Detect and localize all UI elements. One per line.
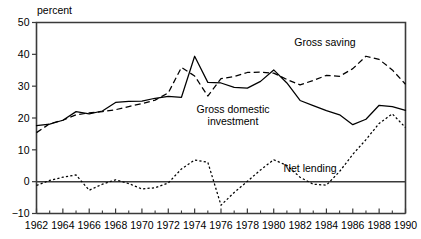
y-tick-label: −10 xyxy=(12,207,30,219)
series-annotations: Gross savingGross domesticinvestmentNet … xyxy=(197,36,356,174)
series-line-net-lending xyxy=(37,114,406,205)
x-tick-label: 1988 xyxy=(367,219,391,231)
x-tick-label: 1970 xyxy=(130,219,154,231)
x-tick-label: 1968 xyxy=(104,219,128,231)
y-axis-unit-label: percent xyxy=(37,4,72,16)
net-lending-label: Net lending xyxy=(283,162,336,174)
x-tick-label: 1964 xyxy=(51,219,75,231)
y-tick-label: 30 xyxy=(18,80,30,92)
x-tick-label: 1966 xyxy=(78,219,102,231)
y-tick-label: 20 xyxy=(18,112,30,124)
x-tick-label: 1976 xyxy=(209,219,233,231)
y-axis-ticks: −1001020304050 xyxy=(12,16,37,219)
y-tick-label: 40 xyxy=(18,48,30,60)
x-tick-label: 1962 xyxy=(25,219,49,231)
gross-saving-label: Gross saving xyxy=(294,36,355,48)
x-tick-label: 1980 xyxy=(262,219,286,231)
gross-domestic-investment-label: Gross domesticinvestment xyxy=(197,103,270,127)
y-tick-label: 10 xyxy=(18,144,30,156)
x-tick-label: 1972 xyxy=(157,219,181,231)
x-tick-label: 1984 xyxy=(315,219,339,231)
x-axis-ticks: 1962196419661968197019721974197619781980… xyxy=(25,209,418,231)
line-chart: percent −1001020304050 19621964196619681… xyxy=(0,0,421,239)
x-tick-label: 1990 xyxy=(394,219,418,231)
x-tick-label: 1978 xyxy=(236,219,260,231)
x-tick-label: 1986 xyxy=(341,219,365,231)
chart-figure: percent −1001020304050 19621964196619681… xyxy=(0,0,421,239)
y-tick-label: 50 xyxy=(18,16,30,28)
x-tick-label: 1974 xyxy=(183,219,207,231)
data-series-group xyxy=(37,56,406,205)
y-tick-label: 0 xyxy=(24,175,30,187)
x-tick-label: 1982 xyxy=(288,219,312,231)
